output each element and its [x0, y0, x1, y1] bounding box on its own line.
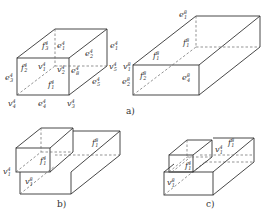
label-f-top: f81 [152, 50, 159, 61]
label-v-left: v41 [3, 166, 11, 177]
label-f-back: f81 [182, 37, 189, 48]
label-f-front: f42 [20, 62, 27, 73]
label-e-left: e43 [5, 72, 13, 83]
label-v-mid: v42 [57, 64, 65, 75]
label-v-bottom-right: v43 [67, 98, 75, 109]
polyhedra-diagram: f43 e41 f42 v41 v42 e48 e42 f41 e43 v44 … [0, 0, 266, 222]
label-v-low: v81 [167, 177, 175, 188]
label-e-top-back: e41 [57, 40, 65, 51]
label-v-bottom-left: v44 [8, 98, 16, 109]
label-f-top: f81 [91, 137, 98, 148]
caption-c: c) [206, 199, 215, 209]
label-f-top: f43 [41, 40, 48, 51]
label-f-front: f82 [139, 70, 146, 81]
label-f-top: f81 [227, 137, 234, 148]
panel-b-labels: f81 f41 v41 v81 [3, 137, 98, 187]
caption-b: b) [57, 199, 66, 209]
label-f-small: f41 [39, 155, 46, 166]
label-e-top: e81 [179, 9, 187, 20]
label-v-front: v41 [38, 61, 46, 72]
label-e-right-top: e42 [85, 48, 93, 59]
label-v-top: v41 [215, 144, 223, 155]
label-e-right-front: e48 [71, 65, 79, 76]
label-e-left: e82 [122, 76, 130, 87]
label-e-right-bottom: e45 [92, 76, 100, 87]
panel-a-left-labels: f43 e41 f42 v41 v42 e48 e42 f41 e43 v44 … [5, 40, 118, 109]
label-f-small: f41 [184, 160, 191, 171]
label-e-far-right: e41 [110, 40, 118, 51]
label-e-bottom: e44 [38, 98, 46, 109]
label-f-bottom: f41 [47, 79, 54, 90]
caption-a: a) [126, 106, 135, 116]
panel-c-shape [164, 138, 254, 195]
label-v-low: v81 [25, 176, 33, 187]
panel-a-right-labels: e81 f81 f81 v81 f82 e82 e84 [122, 9, 190, 87]
label-e-front: e84 [182, 72, 190, 83]
label-v-left: v81 [123, 61, 131, 72]
label-v-right: v45 [109, 61, 117, 72]
